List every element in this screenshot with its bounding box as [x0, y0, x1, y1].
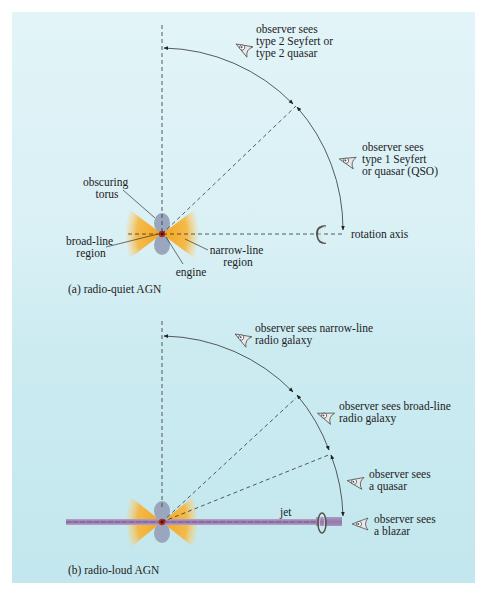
- observer-label-quasar: observer sees a quasar: [369, 468, 434, 493]
- eye-icon: [352, 518, 368, 530]
- panel-a-caption: (a) radio-quiet AGN: [68, 283, 162, 296]
- broad-line-region-label: broad-line region: [66, 235, 116, 260]
- agn-unification-figure: observer sees type 2 Seyfert or type 2 q…: [0, 0, 486, 597]
- observer-label-type2: observer sees type 2 Seyfert or type 2 q…: [256, 23, 336, 60]
- observer-label-narrow-line-radio-galaxy: observer sees narrow-line radio galaxy: [255, 322, 376, 347]
- rotation-icon: [317, 226, 326, 243]
- jet-label: jet: [279, 506, 292, 519]
- engine-label: engine: [176, 266, 207, 279]
- obscuring-torus-label: obscuring torus: [83, 176, 131, 200]
- boundary-line-1: [162, 398, 296, 522]
- eye-icon: [315, 408, 334, 425]
- diagram-svg: observer sees type 2 Seyfert or type 2 q…: [0, 0, 486, 597]
- observer-label-type1: observer sees type 1 Seyfert or quasar (…: [362, 141, 438, 178]
- arc-quasar: [331, 455, 343, 516]
- panel-b-radio-loud: jet observer sees narrow-line radio gala…: [66, 321, 454, 577]
- panel-a-radio-quiet: observer sees type 2 Seyfert or type 2 q…: [66, 23, 438, 296]
- eye-icon: [346, 475, 364, 490]
- boundary-line: [162, 106, 296, 234]
- observer-label-broad-line-radio-galaxy: observer sees broad-line radio galaxy: [339, 400, 454, 425]
- eye-icon: [338, 153, 357, 169]
- panel-b-caption: (b) radio-loud AGN: [68, 564, 160, 577]
- arc-broad-line: [297, 395, 329, 450]
- eye-icon: [232, 329, 252, 347]
- narrow-line-region-label: narrow-line region: [210, 244, 267, 269]
- rotation-axis-label: rotation axis: [351, 228, 409, 240]
- eye-icon: [233, 39, 253, 57]
- observer-label-blazar: observer sees a blazar: [374, 513, 439, 537]
- arc-type1: [297, 107, 343, 230]
